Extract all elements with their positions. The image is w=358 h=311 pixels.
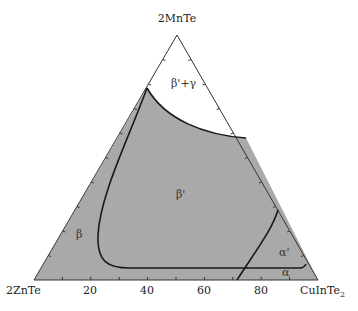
vertex-label-left: 2ZnTe (6, 284, 41, 297)
phase-label-alpha: α (282, 266, 290, 279)
vertex-label-top: 2MnTe (158, 12, 196, 25)
phase-label-beta-prime-gamma: β'+γ (171, 77, 197, 90)
tick-label-80: 80 (254, 284, 268, 297)
vertex-label-right: CuInTe2 (300, 284, 345, 299)
vertex-label-right-main: CuInTe (300, 284, 340, 297)
tick-label-60: 60 (197, 284, 211, 297)
tick-label-40: 40 (140, 284, 154, 297)
tick-label-20: 20 (83, 284, 97, 297)
vertex-label-right-sub: 2 (340, 290, 345, 299)
phase-label-alpha-prime: α' (279, 246, 289, 259)
phase-label-beta: β (76, 228, 82, 241)
phase-label-beta-prime: β' (176, 188, 185, 201)
ternary-diagram: 2MnTe 2ZnTe CuInTe2 20 40 60 80 β'+γ β' … (0, 0, 358, 311)
